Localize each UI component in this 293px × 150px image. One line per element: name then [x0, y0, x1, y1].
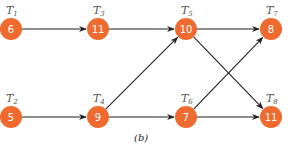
node-value: 11	[92, 24, 105, 35]
node-value: 9	[95, 112, 101, 123]
node-label: T4	[93, 92, 105, 106]
figure-caption: (b)	[134, 132, 148, 143]
task-dependency-graph: 6T15T211T39T410T57T68T711T8	[0, 0, 293, 150]
node-t1: 6T1	[0, 4, 22, 40]
node-label: T6	[181, 92, 193, 106]
task-graph-figure: 6T15T211T39T410T57T68T711T8 (b)	[0, 0, 293, 150]
node-t3: 11T3	[87, 4, 109, 40]
node-value: 7	[183, 112, 189, 123]
node-value: 11	[265, 112, 278, 123]
node-label: T5	[181, 4, 193, 18]
nodes-group: 6T15T211T39T410T57T68T711T8	[0, 4, 282, 128]
node-t7: 8T7	[260, 4, 282, 40]
node-label: T8	[266, 92, 278, 106]
edge-t4-to-t5	[106, 37, 178, 109]
node-t2: 5T2	[0, 92, 22, 128]
node-value: 10	[180, 24, 193, 35]
node-value: 6	[8, 24, 14, 35]
node-label: T1	[6, 4, 18, 18]
node-t8: 11T8	[260, 92, 282, 128]
node-value: 5	[8, 112, 14, 123]
node-t5: 10T5	[175, 4, 197, 40]
node-t6: 7T6	[175, 92, 197, 128]
node-label: T7	[266, 4, 278, 18]
node-label: T2	[6, 92, 18, 106]
node-value: 8	[268, 24, 274, 35]
edges-group	[22, 29, 263, 117]
node-t4: 9T4	[87, 92, 109, 128]
node-label: T3	[93, 4, 105, 18]
